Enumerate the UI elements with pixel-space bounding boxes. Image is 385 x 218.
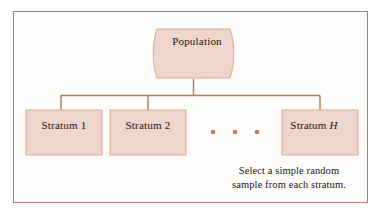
stratum-2-label: Stratum 2: [110, 119, 186, 131]
ellipsis-dots: [211, 130, 260, 135]
caption-line-1: Select a simple random: [216, 164, 362, 178]
stratum-h-index-symbol: H: [327, 119, 338, 131]
connector-lines: [61, 79, 320, 110]
ellipsis-dot: [211, 130, 216, 135]
stratum-h-label: Stratum H: [276, 119, 352, 131]
caption-line-2: sample from each stratum.: [216, 178, 362, 192]
stratum-h-label-text: Stratum: [290, 119, 326, 131]
stratified-sampling-figure: Population Stratum 1 Stratum 2 Stratum H…: [0, 0, 385, 218]
stratum-h-box: [282, 110, 358, 155]
stratum-1-box: [26, 110, 102, 155]
ellipsis-dot: [233, 130, 238, 135]
stratum-2-box: [110, 110, 186, 155]
population-node-label: Population: [143, 35, 251, 47]
stratum-1-label: Stratum 1: [26, 119, 102, 131]
figure-caption: Select a simple random sample from each …: [216, 164, 362, 191]
ellipsis-dot: [255, 130, 260, 135]
